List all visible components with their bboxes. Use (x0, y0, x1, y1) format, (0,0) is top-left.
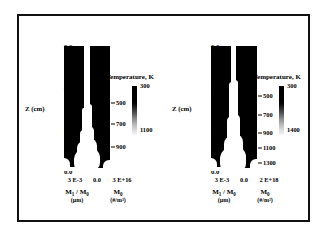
right-colorbar-max-label: 300 (287, 82, 297, 89)
left-map-number-density (88, 46, 110, 171)
left-xlabel-number-density: M0 (#/m³) (110, 188, 125, 203)
right-contour-label-0: 500 (258, 92, 273, 99)
figure-canvas: 0.6 0.4 0.2 0.0 Z (cm) (0, 0, 324, 236)
left-contour-label-1: 700 (111, 119, 126, 126)
left-panel: 0.6 0.4 0.2 0.0 Z (cm) (19, 16, 169, 224)
right-xlabel-number-density: M0 (#/m³) (257, 188, 272, 203)
right-colorbar-title: Temperature, K (253, 73, 301, 81)
right-contour-label-4: 1300 (258, 159, 276, 166)
left-map-mean-size (64, 46, 85, 171)
right-xlabel-mean-size: M1 / M0 (µm) (212, 188, 236, 203)
left-colorbar-min-label: 1100 (140, 126, 152, 133)
left-colorbar (132, 86, 137, 136)
left-xnum-2: 3 E+16 (112, 176, 131, 183)
left-contour-label-0: 500 (111, 98, 126, 105)
right-map-number-density (235, 46, 257, 171)
left-colorbar-max-label: 300 (140, 82, 150, 89)
right-contour-label-3: 1100 (258, 144, 275, 151)
right-colorbar-min-label: 1400 (287, 126, 300, 133)
right-y-axis-label: Z (cm) (172, 105, 191, 112)
left-y-axis-label: Z (cm) (25, 105, 44, 112)
right-contour-label-1: 700 (258, 111, 273, 118)
right-contour-label-2: 900 (258, 129, 273, 136)
right-xnum-1: 0.0 (240, 176, 248, 183)
left-xlabel-mean-size: M1 / M0 (µm) (65, 188, 89, 203)
right-panel: 0.6 0.4 0.2 0.0 Z (cm) (166, 16, 312, 224)
left-contour-label-2: 900 (111, 142, 126, 149)
left-xnum-1: 0.0 (93, 176, 101, 183)
left-maps (64, 46, 110, 171)
right-map-mean-size (211, 46, 232, 171)
left-xnum-0: 3 E-3 (68, 176, 82, 183)
left-colorbar-title: Temperature, K (106, 73, 154, 81)
figure-frame: 0.6 0.4 0.2 0.0 Z (cm) (17, 14, 310, 222)
right-maps (211, 46, 257, 171)
right-colorbar (279, 86, 284, 136)
right-xnum-2: 2 E+18 (259, 176, 278, 183)
right-xnum-0: 3 E-3 (215, 176, 229, 183)
